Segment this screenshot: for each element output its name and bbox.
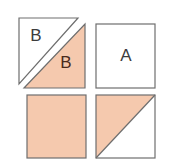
cell-bottom-right-square <box>96 95 155 158</box>
label-b-peach: B <box>60 53 71 72</box>
cell-bottom-left-square <box>27 95 86 158</box>
label-b-white: B <box>30 26 41 45</box>
square-filled-peach <box>27 95 86 158</box>
label-a: A <box>120 46 132 65</box>
cell-top-right-square: A <box>96 24 155 88</box>
geometry-figure: B B A <box>0 0 178 166</box>
figure-canvas: B B A <box>0 0 178 166</box>
cell-top-left-overlapping-triangles: B B <box>19 18 85 88</box>
